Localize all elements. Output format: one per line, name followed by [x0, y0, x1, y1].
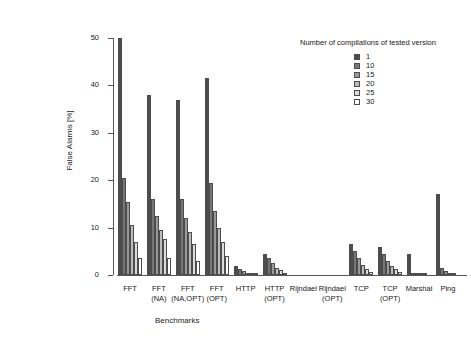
legend-entry: 10	[354, 61, 460, 70]
y-tick-label: 50	[75, 34, 99, 42]
legend-swatch	[354, 90, 360, 96]
x-tick-label: Ping	[424, 284, 471, 294]
legend-entry: 30	[354, 97, 460, 106]
bar-group	[263, 38, 287, 275]
x-axis-line	[117, 275, 467, 276]
y-tick-label: 0	[75, 271, 99, 279]
bar	[398, 272, 402, 275]
bar	[436, 194, 440, 275]
bar	[452, 273, 456, 275]
y-axis-line	[113, 38, 114, 275]
bar	[283, 273, 287, 275]
legend-entry: 15	[354, 70, 460, 79]
legend-entry: 20	[354, 79, 460, 88]
legend-swatch	[354, 99, 360, 105]
bar	[225, 256, 229, 275]
x-axis-title: Benchmarks	[155, 316, 199, 325]
y-tick-label: 20	[75, 176, 99, 184]
legend-label: 10	[366, 61, 374, 70]
legend-entry: 1	[354, 52, 460, 61]
legend-swatch	[354, 81, 360, 87]
y-tick-mark	[108, 38, 113, 39]
legend-label: 30	[366, 97, 374, 106]
y-tick-mark	[108, 228, 113, 229]
legend: Number of compilations of tested version…	[300, 38, 460, 106]
legend-entry: 25	[354, 88, 460, 97]
bar-group	[118, 38, 142, 275]
legend-title: Number of compilations of tested version	[300, 38, 460, 47]
y-tick-label: 40	[75, 81, 99, 89]
y-tick-mark	[108, 85, 113, 86]
y-axis-title: False Alarms [%]	[65, 86, 74, 196]
legend-label: 1	[366, 52, 370, 61]
legend-swatch	[354, 72, 360, 78]
bar-group	[234, 38, 258, 275]
legend-label: 25	[366, 88, 374, 97]
bar	[254, 273, 258, 275]
bar-group	[205, 38, 229, 275]
y-tick-label: 30	[75, 129, 99, 137]
bar-group	[176, 38, 200, 275]
bar	[407, 254, 411, 275]
bar	[196, 261, 200, 275]
legend-label: 15	[366, 70, 374, 79]
legend-swatch	[354, 63, 360, 69]
y-tick-label: 10	[75, 224, 99, 232]
bar	[423, 273, 427, 275]
bar	[138, 258, 142, 275]
y-tick-mark	[108, 180, 113, 181]
legend-entries: 11015202530	[354, 52, 460, 106]
bar-group	[147, 38, 171, 275]
y-tick-mark	[108, 133, 113, 134]
y-tick-mark	[108, 275, 113, 276]
legend-label: 20	[366, 79, 374, 88]
legend-swatch	[354, 54, 360, 60]
bar	[167, 258, 171, 275]
bar	[369, 272, 373, 275]
